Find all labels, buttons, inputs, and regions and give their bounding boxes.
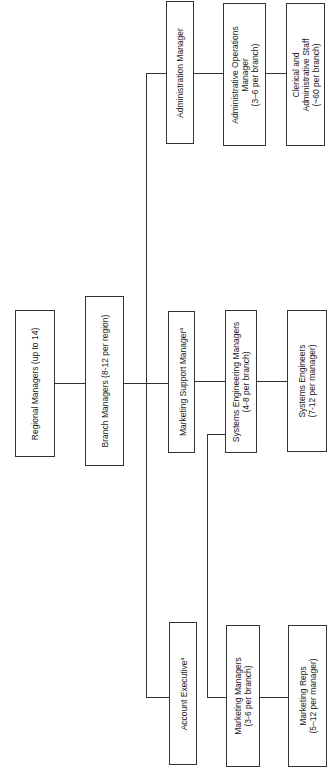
node-sublabel: (3–6 per branch) [250,26,260,123]
node-marketing-reps: Marketing Reps (5–12 per manager) [288,625,327,767]
node-account-executive: Account Executivea [169,622,197,765]
node-label: Administrative Staff [301,38,311,111]
node-marketing-support-manager: Marketing Support Managera [168,311,195,453]
connector-trunk-account [146,697,169,698]
node-label: Clerical and [291,38,301,111]
connector-secondary-mm [207,697,226,698]
node-systems-engineering-managers: Systems Engineering Managers (4-8 per br… [225,310,257,453]
node-marketing-managers: Marketing Managers (3-6 per branch) [226,625,260,767]
node-label: Regional Managers (up to 14) [30,327,40,439]
connector-support-se [195,381,225,382]
node-administration-manager: Administration Manager [166,1,194,144]
connector-admin-ops [194,73,223,74]
connector-se-engineers [257,381,287,382]
node-regional-managers: Regional Managers (up to 14) [15,310,55,457]
node-label: Branch Managers (8-12 per region) [100,315,110,448]
node-label: Marketing Reps [298,658,308,733]
node-label: Account Executive [179,660,189,730]
node-sublabel: (7-12 per manager) [307,344,317,417]
connector-regional-branch [55,383,85,384]
node-systems-engineers: Systems Engineers (7-12 per manager) [287,310,327,452]
node-label: Marketing Support Manager [178,331,188,436]
footnote-marker: a [179,657,185,660]
node-label: Systems Engineers [297,344,307,417]
node-label: Manager [240,26,250,123]
node-administrative-operations-manager: Administrative Operations Manager (3–6 p… [223,3,266,146]
node-label: Administrative Operations [230,26,240,123]
node-sublabel: (5–12 per manager) [308,658,318,733]
connector-mm-reps [260,697,288,698]
node-label: Systems Engineering Managers [231,321,241,441]
connector-trunk [146,73,147,698]
node-sublabel: (~60 per branch) [311,38,321,111]
node-branch-managers: Branch Managers (8-12 per region) [85,296,124,466]
node-label: Marketing Managers [233,657,243,734]
footnote-marker: a [177,328,183,331]
node-sublabel: (4-8 per branch) [241,321,251,441]
connector-secondary [207,434,208,698]
node-clerical-staff: Clerical and Administrative Staff (~60 p… [286,3,325,146]
node-label: Administration Manager [175,28,185,118]
node-sublabel: (3-6 per branch) [243,657,253,734]
connector-secondary-se [207,434,225,435]
connector-trunk-admin [146,73,166,74]
connector-ops-clerical [266,73,286,74]
